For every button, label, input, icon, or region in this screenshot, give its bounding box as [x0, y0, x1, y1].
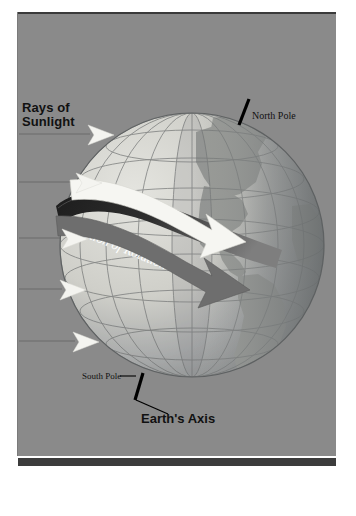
axis-north-segment: [239, 99, 249, 125]
axis-south-segment: [135, 373, 143, 400]
north-pole-label: North Pole: [252, 110, 296, 121]
diagram-stage: Direction of Rotation: [0, 0, 356, 516]
south-pole-label: South Pole: [82, 371, 121, 381]
diagram-graphics: Direction of Rotation: [0, 0, 356, 516]
rays-of-sunlight-label: Rays of Sunlight: [22, 101, 75, 129]
earths-axis-label: Earth's Axis: [141, 411, 215, 426]
